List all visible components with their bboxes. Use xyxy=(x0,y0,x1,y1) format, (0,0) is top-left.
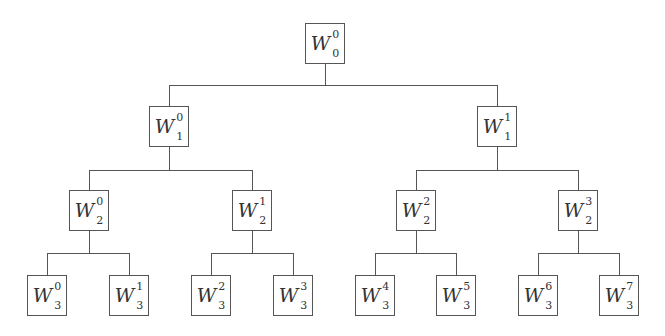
connector-line xyxy=(293,253,294,275)
node-label: W02 xyxy=(75,201,104,220)
connector-line xyxy=(619,253,620,275)
node-w-0-0: W00 xyxy=(305,23,345,64)
node-label: W12 xyxy=(238,201,267,220)
connector-line xyxy=(47,253,130,254)
connector-line xyxy=(89,231,90,253)
node-w-1-0: W01 xyxy=(149,106,189,147)
node-label: W33 xyxy=(279,286,308,305)
connector-line xyxy=(252,170,253,190)
node-w-3-2: W23 xyxy=(191,275,231,316)
node-label: W22 xyxy=(402,201,431,220)
connector-line xyxy=(416,170,579,171)
connector-line xyxy=(89,170,253,171)
connector-line xyxy=(497,85,498,106)
node-w-2-3: W32 xyxy=(558,190,598,231)
node-label: W11 xyxy=(483,117,512,136)
node-label: W01 xyxy=(155,117,184,136)
connector-line xyxy=(211,253,212,275)
connector-line xyxy=(89,170,90,190)
connector-line xyxy=(578,231,579,253)
connector-line xyxy=(252,231,253,253)
connector-line xyxy=(169,147,170,170)
binary-tree-diagram: W00 W01 W11 W02 W12 W22 W32 W03 W13 W23 … xyxy=(0,0,665,336)
node-w-2-2: W22 xyxy=(396,190,436,231)
connector-line xyxy=(497,147,498,170)
node-w-3-1: W13 xyxy=(109,275,149,316)
node-label: W03 xyxy=(33,286,62,305)
node-w-2-1: W12 xyxy=(232,190,272,231)
node-label: W43 xyxy=(361,286,390,305)
node-label: W32 xyxy=(564,201,593,220)
node-w-2-0: W02 xyxy=(69,190,109,231)
node-w-3-3: W33 xyxy=(273,275,313,316)
node-w-3-0: W03 xyxy=(27,275,67,316)
connector-line xyxy=(538,253,620,254)
node-w-3-6: W63 xyxy=(518,275,558,316)
node-w-1-1: W11 xyxy=(477,106,517,147)
connector-line xyxy=(211,253,294,254)
node-label: W73 xyxy=(605,286,634,305)
connector-line xyxy=(578,170,579,190)
node-label: W53 xyxy=(442,286,471,305)
connector-line xyxy=(375,253,457,254)
node-w-3-5: W53 xyxy=(436,275,476,316)
node-label: W00 xyxy=(311,34,340,53)
connector-line xyxy=(375,253,376,275)
node-label: W63 xyxy=(524,286,553,305)
node-w-3-7: W73 xyxy=(599,275,639,316)
connector-line xyxy=(416,231,417,253)
connector-line xyxy=(416,170,417,190)
connector-line xyxy=(129,253,130,275)
connector-line xyxy=(169,85,498,86)
connector-line xyxy=(538,253,539,275)
connector-line xyxy=(325,64,326,85)
node-w-3-4: W43 xyxy=(355,275,395,316)
connector-line xyxy=(47,253,48,275)
node-label: W23 xyxy=(197,286,226,305)
node-label: W13 xyxy=(115,286,144,305)
connector-line xyxy=(456,253,457,275)
connector-line xyxy=(169,85,170,106)
